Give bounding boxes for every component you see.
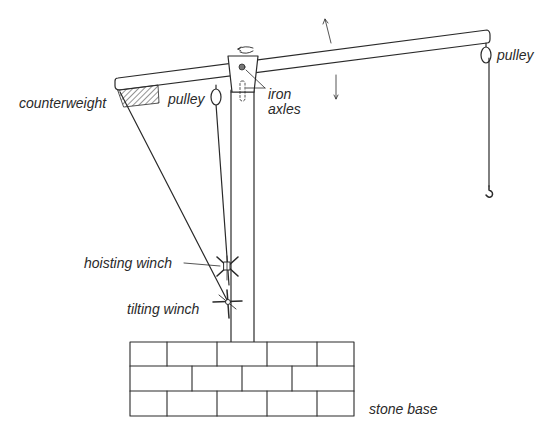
label-tilting-winch: tilting winch (127, 302, 199, 317)
label-counterweight: counterweight (19, 96, 106, 111)
label-hoisting-winch: hoisting winch (84, 256, 172, 271)
mast (231, 90, 254, 342)
stone-base (130, 342, 354, 416)
left-pulley (211, 89, 221, 105)
hook (486, 186, 493, 197)
label-pulley-left: pulley (168, 92, 205, 107)
label-iron-axles-1: iron (268, 87, 291, 102)
tilting-winch (213, 290, 242, 318)
tilt-up-arrow (323, 19, 331, 43)
tilt-down-arrow (334, 75, 338, 99)
crane-diagram (0, 0, 558, 435)
beam (115, 30, 490, 90)
label-stone-base: stone base (369, 402, 438, 417)
iron-axle-upper (239, 64, 245, 70)
hoisting-winch-leader (184, 263, 220, 266)
rotation-arrow (238, 47, 253, 54)
label-pulley-right: pulley (497, 48, 534, 63)
label-iron-axles-2: axles (268, 102, 301, 117)
